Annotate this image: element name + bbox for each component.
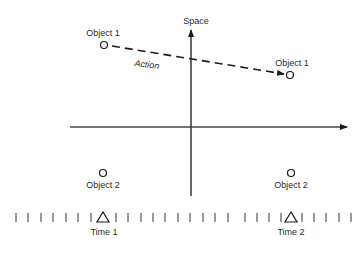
object-2-time-2-label: Object 2 <box>274 181 308 190</box>
object-2-time-2-icon <box>288 170 295 177</box>
space-axis-label: Space <box>183 17 209 26</box>
object-2-time-1-label: Object 2 <box>86 181 120 190</box>
time-2-label: Time 2 <box>277 228 304 237</box>
object-1-time-2-label: Object 1 <box>275 59 309 68</box>
object-2-time-1-icon <box>100 170 107 177</box>
timeline-ticks <box>16 213 351 222</box>
object-1-time-1-icon <box>101 42 108 49</box>
time-1-marker-icon <box>97 212 109 222</box>
object-1-time-2-icon <box>287 72 294 79</box>
time-2-marker-icon <box>285 212 297 222</box>
space-time-diagram <box>0 0 364 256</box>
time-1-label: Time 1 <box>90 228 117 237</box>
object-1-time-1-label: Object 1 <box>86 29 120 38</box>
